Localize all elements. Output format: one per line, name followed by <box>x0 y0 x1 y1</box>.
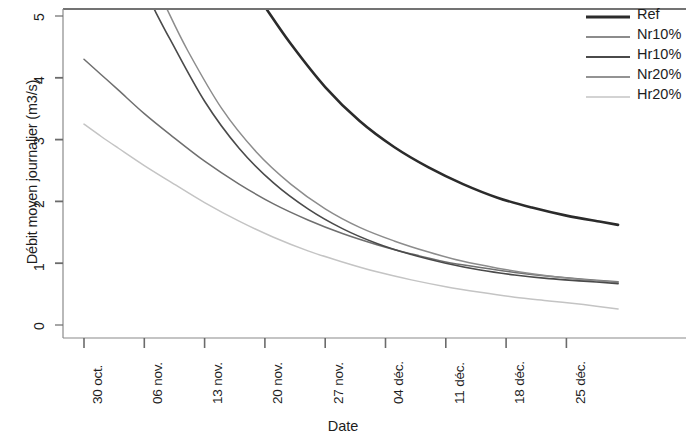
data-series-layer <box>84 7 618 309</box>
legend-label-hr20: Hr20% <box>637 86 681 102</box>
legend-line-nr10 <box>586 34 630 40</box>
legend-item-nr20: Nr20% <box>586 66 686 86</box>
legend-label-hr10: Hr10% <box>637 46 681 62</box>
legend-item-nr10: Nr10% <box>586 26 686 46</box>
chart-container: Débit moyen journalier (m3/s) 5 4 3 2 1 … <box>0 0 686 446</box>
series-line-nr20 <box>84 59 618 281</box>
legend-item-hr20: Hr20% <box>586 86 686 106</box>
y-axis-ticks <box>55 16 63 325</box>
legend-label-ref: Ref <box>637 6 660 22</box>
plot-area <box>0 0 686 446</box>
series-line-hr20 <box>84 124 618 309</box>
legend-label-nr10: Nr10% <box>637 26 681 42</box>
series-line-hr10 <box>153 7 618 284</box>
legend-label-nr20: Nr20% <box>637 66 681 82</box>
legend-item-hr10: Hr10% <box>586 46 686 66</box>
series-line-ref <box>265 7 618 225</box>
legend-item-ref: Ref <box>586 6 686 26</box>
legend-line-hr10 <box>586 54 630 60</box>
legend-line-hr20 <box>586 94 630 100</box>
legend-line-nr20 <box>586 74 630 80</box>
legend-line-ref <box>586 14 630 20</box>
x-axis-ticks <box>84 338 566 348</box>
legend: Ref Nr10% Hr10% Nr20% Hr20% <box>586 6 686 106</box>
